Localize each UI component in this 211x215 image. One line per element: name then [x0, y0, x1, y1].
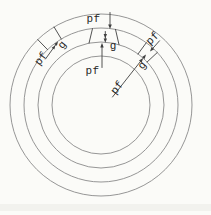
top-gap-g-label: g [110, 40, 117, 52]
scanned-diagram-page: pf g pf pf g pf g pf [0, 0, 211, 215]
scan-smudge [0, 204, 211, 211]
top-inner-pf-label: pf [86, 65, 100, 77]
top-outer-pf-label: pf [87, 13, 101, 25]
concentric-ring-diagram: pf g pf pf g pf g pf [0, 0, 211, 215]
